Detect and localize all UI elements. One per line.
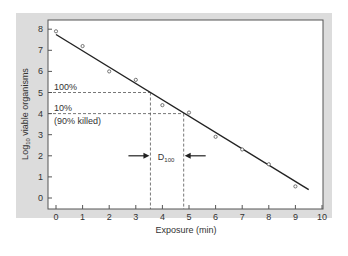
x-tick-label: 3: [133, 212, 138, 222]
y-tick-label: 5: [38, 88, 43, 98]
x-tick-label: 10: [317, 212, 327, 222]
y-tick-label: 7: [38, 45, 43, 55]
data-point: [134, 78, 137, 81]
x-tick-label: 9: [293, 212, 298, 222]
x-tick-label: 1: [80, 212, 85, 222]
chart: 012345678910 012345678 100%10%(90% kille…: [0, 0, 348, 256]
x-tick-label: 6: [213, 212, 218, 222]
y-tick-label: 0: [38, 193, 43, 203]
y-tick-label: 4: [38, 109, 43, 119]
x-tick-label: 7: [240, 212, 245, 222]
label-100-percent: 100%: [54, 82, 77, 92]
data-point: [161, 104, 164, 107]
y-tick-label: 2: [38, 151, 43, 161]
x-tick-label: 8: [266, 212, 271, 222]
y-tick-label: 6: [38, 66, 43, 76]
data-point: [267, 163, 270, 166]
data-point: [294, 185, 297, 188]
y-axis-title: Log10 viable organisms: [20, 68, 31, 160]
y-tick-label: 8: [38, 24, 43, 34]
data-point: [187, 111, 190, 114]
y-tick-label: 3: [38, 130, 43, 140]
data-point: [214, 135, 217, 138]
data-point: [241, 148, 244, 151]
label-90-killed: (90% killed): [54, 116, 101, 126]
x-axis-title: Exposure (min): [155, 225, 216, 235]
x-tick-label: 4: [160, 212, 165, 222]
data-point: [81, 44, 84, 47]
x-tick-label: 5: [186, 212, 191, 222]
data-point: [54, 30, 57, 33]
x-tick-label: 0: [53, 212, 58, 222]
label-10-percent: 10%: [54, 103, 72, 113]
x-tick-label: 2: [107, 212, 112, 222]
data-point: [108, 70, 111, 73]
y-tick-label: 1: [38, 172, 43, 182]
